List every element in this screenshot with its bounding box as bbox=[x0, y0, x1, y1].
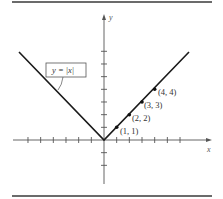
x-axis bbox=[13, 137, 212, 143]
point-label-4: (4, 4) bbox=[158, 87, 177, 97]
point-4-4 bbox=[153, 88, 157, 92]
point-label-3: (3, 3) bbox=[144, 100, 163, 110]
y-axis bbox=[101, 14, 107, 184]
x-axis-arrow-icon bbox=[206, 138, 212, 142]
point-label-2: (2, 2) bbox=[132, 113, 151, 123]
absolute-value-graph: x y y = |x| (1, 1) (2, 2) (3, 3) (4, 4) bbox=[0, 0, 223, 199]
function-label: y = |x| bbox=[51, 65, 74, 75]
y-axis-label: y bbox=[108, 13, 113, 22]
x-axis-label: x bbox=[206, 145, 211, 154]
point-label-1: (1, 1) bbox=[120, 126, 139, 136]
point-2-2 bbox=[128, 113, 132, 117]
y-axis-arrow-icon bbox=[102, 14, 106, 20]
point-1-1 bbox=[115, 126, 119, 130]
marked-points: (1, 1) (2, 2) (3, 3) (4, 4) bbox=[115, 87, 177, 136]
